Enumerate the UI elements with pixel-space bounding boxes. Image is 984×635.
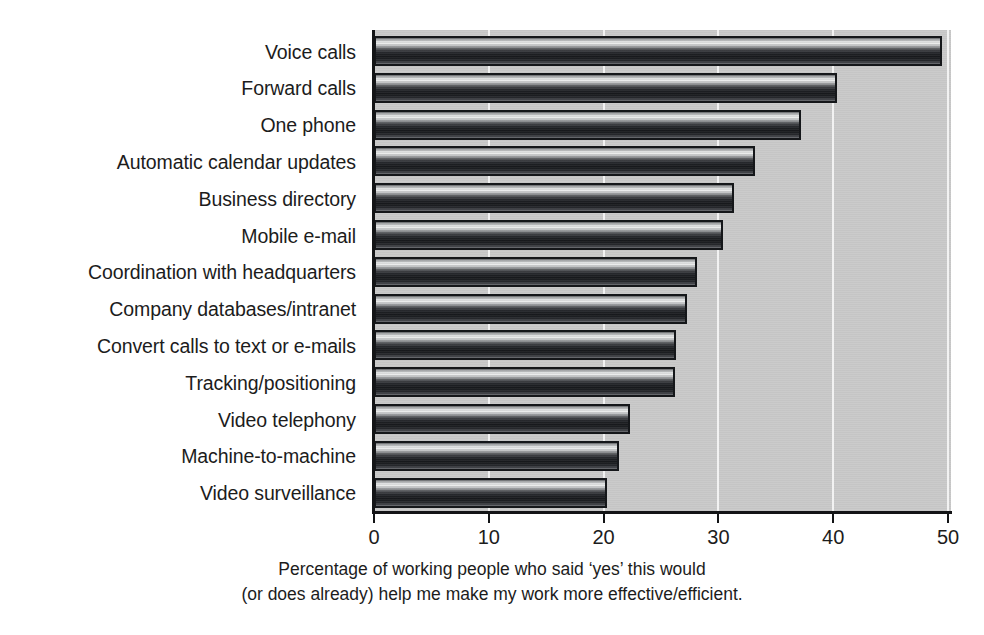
gridline-50 xyxy=(947,30,949,512)
category-label: Automatic calendar updates xyxy=(0,150,356,174)
bar xyxy=(374,478,607,508)
x-tick-40 xyxy=(832,514,834,523)
x-tick-label: 0 xyxy=(368,525,379,549)
bar xyxy=(374,257,697,287)
bar xyxy=(374,404,630,434)
bar xyxy=(374,183,734,213)
category-label: Machine-to-machine xyxy=(0,444,356,468)
bar xyxy=(374,294,687,324)
bar xyxy=(374,330,676,360)
caption-line-1: Percentage of working people who said ‘y… xyxy=(0,557,984,582)
x-tick-50 xyxy=(947,514,949,523)
bar-chart-figure: Voice callsForward callsOne phoneAutomat… xyxy=(0,0,984,635)
x-tick-10 xyxy=(488,514,490,523)
category-label: Voice calls xyxy=(0,40,356,64)
bar xyxy=(374,367,675,397)
category-label: Coordination with headquarters xyxy=(0,260,356,284)
x-tick-30 xyxy=(717,514,719,523)
bar xyxy=(374,36,942,66)
caption-line-2: (or does already) help me make my work m… xyxy=(0,582,984,607)
x-axis-line xyxy=(372,511,952,514)
x-tick-label: 50 xyxy=(937,525,959,549)
category-label: Convert calls to text or e-mails xyxy=(0,334,356,358)
plot-area xyxy=(374,30,951,512)
bar xyxy=(374,220,723,250)
category-label: Company databases/intranet xyxy=(0,297,356,321)
x-tick-label: 10 xyxy=(478,525,500,549)
x-tick-0 xyxy=(373,514,375,523)
x-tick-label: 30 xyxy=(707,525,729,549)
chart-caption: Percentage of working people who said ‘y… xyxy=(0,557,984,607)
x-tick-label: 40 xyxy=(822,525,844,549)
category-label: Forward calls xyxy=(0,76,356,100)
x-tick-label: 20 xyxy=(592,525,614,549)
category-label: One phone xyxy=(0,113,356,137)
bar xyxy=(374,146,755,176)
category-label: Video surveillance xyxy=(0,481,356,505)
category-axis-labels: Voice callsForward callsOne phoneAutomat… xyxy=(0,31,356,511)
bar xyxy=(374,441,619,471)
category-label: Business directory xyxy=(0,187,356,211)
bar xyxy=(374,73,837,103)
category-label: Mobile e-mail xyxy=(0,224,356,248)
x-tick-20 xyxy=(603,514,605,523)
y-axis-line xyxy=(372,30,375,513)
category-label: Tracking/positioning xyxy=(0,371,356,395)
category-label: Video telephony xyxy=(0,408,356,432)
bar xyxy=(374,110,801,140)
